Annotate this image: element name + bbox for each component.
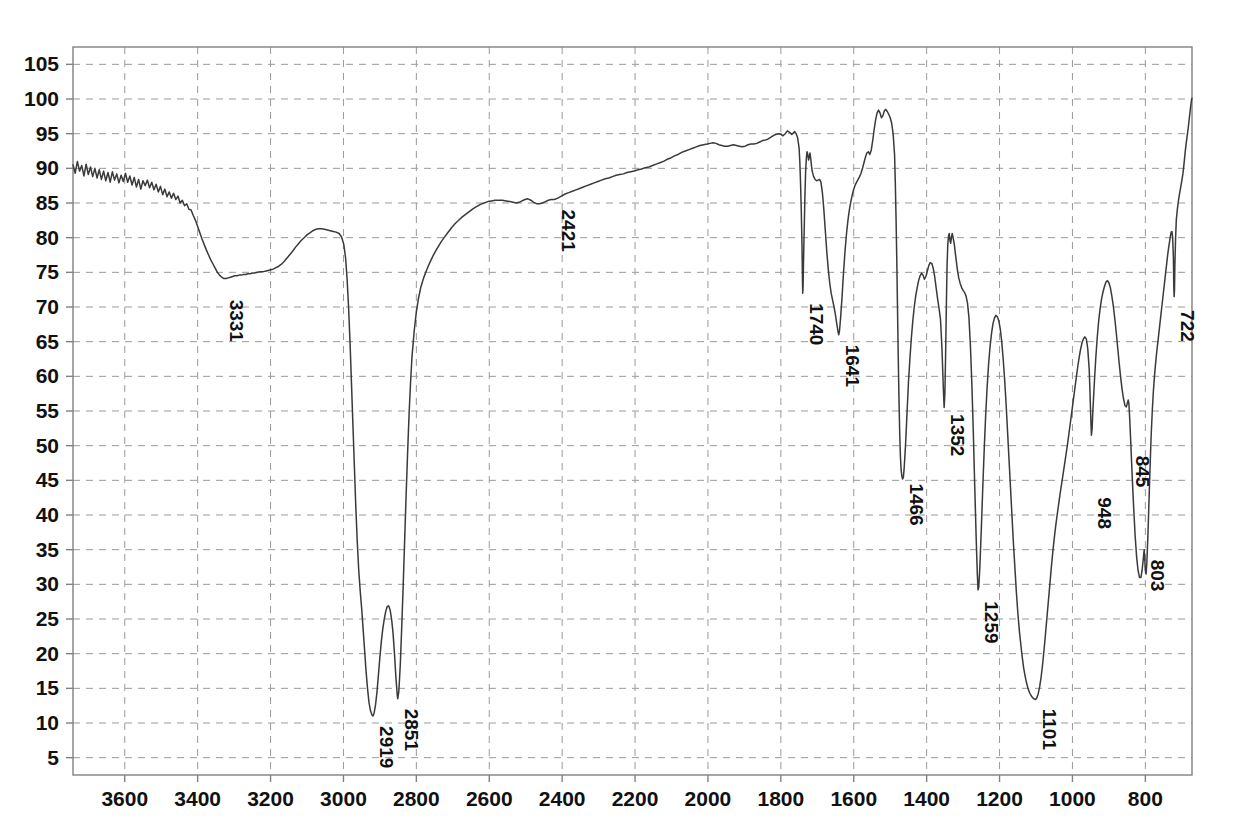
y-tick-label: 60 — [36, 364, 59, 387]
y-tick-label: 70 — [36, 295, 59, 318]
y-tick-label: 40 — [36, 503, 59, 526]
x-tick-label: 2200 — [612, 787, 659, 810]
peak-label: 722 — [1177, 310, 1198, 342]
y-tick-label: 100 — [24, 87, 59, 110]
y-tick-label: 105 — [24, 52, 59, 75]
y-tick-label: 35 — [36, 538, 60, 561]
peak-label: 1740 — [806, 303, 827, 345]
x-tick-label: 3200 — [247, 787, 294, 810]
y-tick-label: 75 — [36, 260, 60, 283]
y-tick-label: 80 — [36, 226, 59, 249]
y-tick-label: 5 — [47, 746, 59, 769]
peak-label: 2919 — [376, 726, 397, 768]
y-tick-label: 30 — [36, 572, 59, 595]
y-tick-label: 95 — [36, 122, 60, 145]
peak-label: 845 — [1132, 456, 1153, 488]
x-tick-label: 2800 — [393, 787, 440, 810]
peak-label: 2851 — [401, 709, 422, 752]
peak-label: 2421 — [558, 210, 579, 253]
y-tick-label: 90 — [36, 156, 59, 179]
y-tick-label: 85 — [36, 191, 60, 214]
peak-label: 1641 — [842, 345, 863, 388]
peak-label: 3331 — [226, 300, 247, 343]
y-tick-label: 65 — [36, 330, 60, 353]
y-tick-label: 15 — [36, 676, 60, 699]
x-tick-label: 1000 — [1049, 787, 1096, 810]
y-tick-label: 25 — [36, 607, 60, 630]
x-tick-label: 1800 — [757, 787, 804, 810]
y-axis-ticks — [66, 64, 73, 757]
x-tick-label: 1600 — [830, 787, 877, 810]
peak-label: 1101 — [1039, 709, 1060, 751]
x-tick-label: 2600 — [466, 787, 513, 810]
y-tick-label: 10 — [36, 711, 59, 734]
x-tick-label: 1400 — [903, 787, 950, 810]
peak-label: 1466 — [906, 483, 927, 525]
x-tick-label: 800 — [1128, 787, 1163, 810]
y-tick-label: 45 — [36, 468, 60, 491]
x-tick-label: 2000 — [685, 787, 732, 810]
x-tick-label: 3600 — [101, 787, 148, 810]
peak-label: 948 — [1094, 497, 1115, 529]
x-tick-label: 3000 — [320, 787, 367, 810]
x-axis-tick-labels: 3600340032003000280026002400220020001800… — [101, 787, 1162, 810]
y-tick-label: 20 — [36, 642, 59, 665]
y-tick-label: 55 — [36, 399, 60, 422]
y-tick-label: 50 — [36, 434, 59, 457]
peak-label: 1352 — [947, 414, 968, 456]
x-tick-label: 2400 — [539, 787, 586, 810]
ir-spectrum-figure: 3600340032003000280026002400220020001800… — [0, 0, 1237, 840]
spectrum-plot: 3600340032003000280026002400220020001800… — [0, 0, 1237, 840]
peak-label: 803 — [1147, 560, 1168, 592]
x-tick-label: 1200 — [976, 787, 1023, 810]
peak-label: 1259 — [981, 601, 1002, 643]
x-tick-label: 3400 — [174, 787, 221, 810]
